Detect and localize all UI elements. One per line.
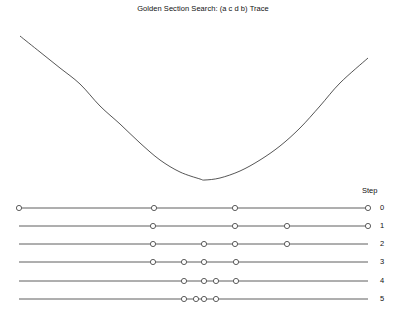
step-column-header: Step <box>362 186 377 195</box>
trace-point-c <box>201 241 206 246</box>
trace-point-a <box>181 278 186 283</box>
trace-point-c <box>201 278 206 283</box>
trace-point-b <box>213 296 218 301</box>
trace-point-b <box>284 241 289 246</box>
trace-row <box>19 241 368 246</box>
objective-curve <box>20 36 368 180</box>
function-curve <box>20 36 368 180</box>
trace-point-c <box>181 259 186 264</box>
step-label-3: 3 <box>380 257 384 266</box>
trace-point-d <box>213 278 218 283</box>
trace-point-c <box>193 296 198 301</box>
golden-section-figure: Golden Section Search: (a c d b) Trace S… <box>0 0 406 319</box>
trace-point-d <box>201 259 206 264</box>
step-label-1: 1 <box>380 221 384 230</box>
trace-point-b <box>365 205 370 210</box>
step-label-4: 4 <box>380 276 384 285</box>
trace-row <box>16 205 370 210</box>
trace-point-a <box>150 223 155 228</box>
trace-row <box>19 259 368 264</box>
trace-point-c <box>151 205 156 210</box>
step-label-2: 2 <box>380 239 384 248</box>
trace-point-d <box>232 205 237 210</box>
step-label-5: 5 <box>380 294 384 303</box>
trace-point-b <box>365 223 370 228</box>
trace-point-d <box>201 296 206 301</box>
step-label-0: 0 <box>380 203 384 212</box>
trace-point-a <box>150 259 155 264</box>
trace-point-a <box>181 296 186 301</box>
trace-point-c <box>232 223 237 228</box>
trace-point-d <box>284 223 289 228</box>
trace-row <box>19 223 371 228</box>
trace-row <box>19 278 368 283</box>
trace-point-a <box>150 241 155 246</box>
trace-point-a <box>16 205 21 210</box>
trace-point-d <box>232 241 237 246</box>
trace-point-b <box>233 278 238 283</box>
trace-row <box>19 296 368 301</box>
trace-lines-layer <box>16 205 370 301</box>
plot-canvas <box>0 0 406 319</box>
trace-point-b <box>233 259 238 264</box>
